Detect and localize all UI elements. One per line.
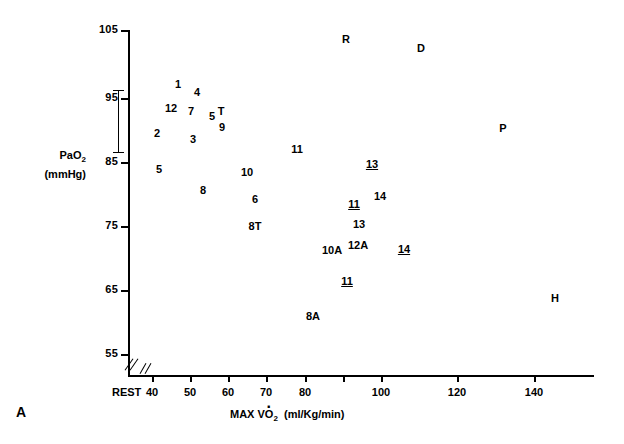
y-axis-title: PaO2 (mmHg) [28,148,86,182]
y-tick [121,162,128,164]
y-tick-label: 95 [105,91,118,103]
x-axis-title-dot: O [265,408,274,420]
y-tick [121,30,128,32]
x-tick [228,375,230,382]
y-tick-label: 65 [105,283,118,295]
data-point: 10A [322,244,342,256]
data-point: 1 [175,78,181,90]
data-point: 12 [165,102,177,114]
x-axis-title-sub: O [265,408,274,420]
data-point: 8A [306,310,320,322]
y-axis-title-sub: 2 [82,155,86,164]
x-tick-label: 60 [208,386,248,398]
error-bar-cap-bottom [113,152,124,153]
data-point: 11 [341,275,353,287]
data-point: 14 [374,190,386,202]
x-axis-title-prefix: MAX V [230,408,265,420]
data-point: R [342,33,350,45]
x-tick [343,375,345,382]
y-axis-title-line1: PaO [60,149,82,161]
x-tick [266,375,268,382]
x-tick [152,375,154,382]
x-axis-title-sub2: 2 [273,414,277,423]
y-tick [121,98,128,100]
y-tick [121,354,128,356]
y-tick-label: 105 [99,23,118,35]
y-axis-line [128,30,130,375]
x-tick [381,375,383,382]
y-tick-label: 85 [105,155,118,167]
x-tick [534,375,536,382]
data-point: 7 [188,105,194,117]
data-point: 10 [241,166,253,178]
data-point: T [218,105,225,117]
y-axis-title-line2: (mmHg) [44,168,86,180]
data-point: P [499,122,506,134]
x-tick [457,375,459,382]
data-point: 6 [252,193,258,205]
y-tick-label: 55 [105,347,118,359]
data-point: 8 [200,184,206,196]
data-point: 11 [348,198,360,210]
data-point: 14 [398,243,410,255]
y-tick [121,226,128,228]
data-point: 5 [209,110,215,122]
x-axis-title-units: (ml/Kg/min) [284,408,345,420]
data-point: 8T [249,220,262,232]
panel-label: A [16,404,26,420]
x-tick-label: 100 [361,386,401,398]
data-point: 4 [194,86,200,98]
x-tick-label: 50 [170,386,210,398]
data-point: 3 [190,133,196,145]
data-point: 9 [219,121,225,133]
x-tick-label: 120 [437,386,477,398]
data-point: H [551,292,559,304]
rest-tick-label: REST [112,386,141,398]
x-tick-label: 70 [246,386,286,398]
x-tick [190,375,192,382]
data-point: 13 [353,218,365,230]
data-point: 5 [156,163,162,175]
x-tick-label: 80 [285,386,325,398]
x-tick-label: 140 [514,386,554,398]
y-tick-label: 75 [105,219,118,231]
data-point: 11 [291,143,303,155]
scatter-chart: 105 95 85 75 65 55 PaO2 (mmHg) 40 50 60 … [0,0,624,444]
x-tick [305,375,307,382]
data-point: 2 [154,127,160,139]
y-tick [121,290,128,292]
data-point: D [417,42,425,54]
data-point: 13 [366,158,378,170]
data-point: 12A [348,239,368,251]
x-axis-title: MAX VO2 (ml/Kg/min) [230,408,344,423]
error-bar-cap-top [113,90,124,91]
error-bar [118,90,119,152]
x-axis-line [128,375,594,377]
